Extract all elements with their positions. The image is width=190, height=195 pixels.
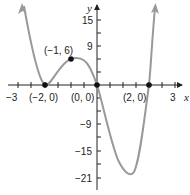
point-label-neg1-6: (−1, 6) [44,45,73,56]
y-tick-label-15: 15 [82,15,94,26]
point-label-0-0: (0, 0) [71,92,94,103]
point-neg2-0 [42,82,48,88]
point-label-neg2-0: (−2, 0) [29,92,58,103]
y-tick-label-neg9: −9 [80,119,92,130]
y-tick-label-neg21: −21 [75,173,92,184]
point-0-0 [94,82,100,88]
point-neg1-6 [68,56,74,62]
x-tick-label-3: 3 [170,92,176,103]
point-2-0 [146,82,152,88]
chart: y x −3 3 15 9 −9 −15 −21 (−2, 0) (−1, 6)… [0,0,190,195]
y-tick-label-9: 9 [87,41,93,52]
point-label-2-0: (2, 0) [123,92,146,103]
y-tick-label-neg15: −15 [75,146,92,157]
y-axis-label: y [86,2,92,14]
x-axis-label: x [183,91,189,103]
x-tick-label-neg3: −3 [6,92,18,103]
